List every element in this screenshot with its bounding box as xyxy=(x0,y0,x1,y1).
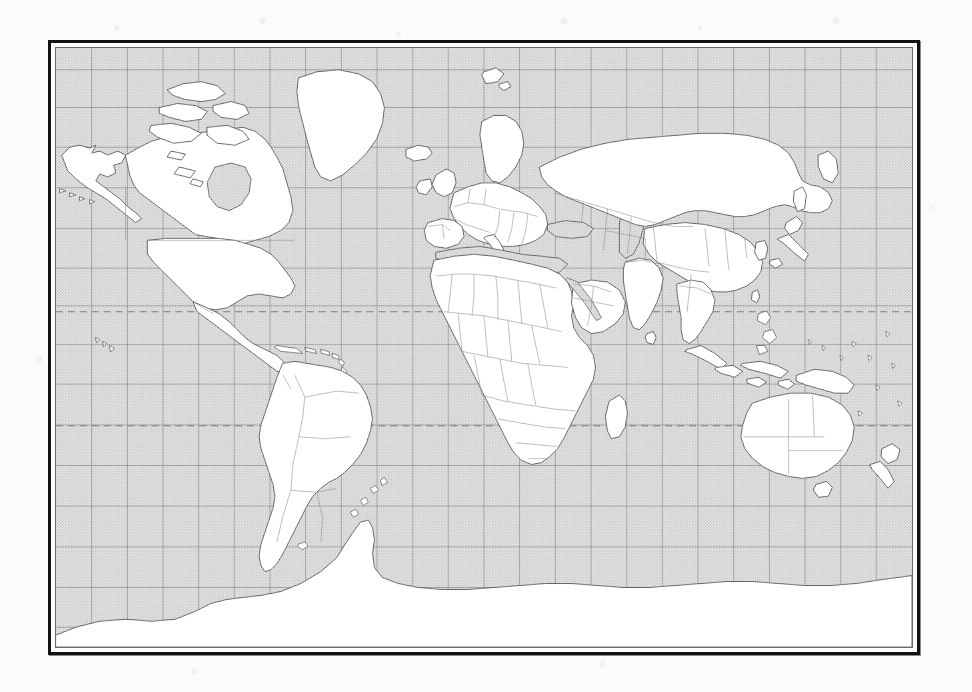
map-frame xyxy=(48,40,920,655)
map-viewport[interactable] xyxy=(55,47,913,648)
world-map-graphic[interactable] xyxy=(56,48,912,647)
land-iberia xyxy=(424,219,464,249)
